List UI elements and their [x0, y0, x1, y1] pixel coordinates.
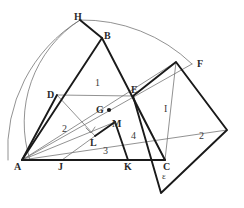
point-label-a: A	[14, 162, 21, 172]
point-markers-group	[107, 108, 111, 112]
point-dot-g	[107, 108, 111, 112]
point-label-k: K	[124, 162, 132, 172]
region-3: 3	[103, 146, 108, 156]
region-2-right: 2	[199, 131, 204, 141]
region-epsilon: ε	[162, 172, 166, 181]
point-label-h: H	[74, 12, 82, 22]
point-label-g: G	[96, 105, 104, 115]
line-a-to-l-thin	[22, 122, 115, 160]
geometry-canvas	[0, 0, 244, 208]
segment-ab-extended-to-h	[80, 20, 102, 38]
point-label-m: M	[112, 119, 122, 129]
line-g-diagonal	[57, 95, 133, 96]
point-label-l: L	[90, 138, 97, 148]
geometry-figure: ABCDEFGHJKLM 12234Iε	[0, 0, 244, 208]
point-label-e: E	[131, 85, 138, 95]
square-on-bc-ecfx	[133, 62, 227, 193]
point-label-j: J	[58, 162, 63, 172]
point-label-d: D	[47, 90, 54, 100]
arc-outer-from-a	[8, 20, 80, 160]
region-2-left: 2	[62, 124, 67, 134]
region-1: 1	[95, 78, 100, 88]
point-label-b: B	[104, 31, 111, 41]
region-I: I	[164, 104, 167, 114]
region-4: 4	[131, 131, 136, 141]
point-label-f: F	[197, 59, 203, 69]
construction-lines-group	[8, 20, 227, 160]
base-ac-light	[22, 130, 227, 160]
arc-top-h-to-f	[80, 20, 192, 64]
